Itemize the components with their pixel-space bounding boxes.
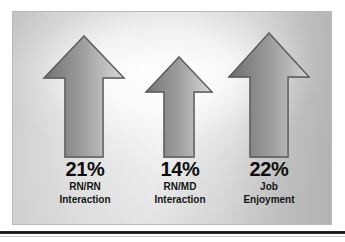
chart-panel: 21% RN/RN Interaction 14% RN/MD Interact…: [12, 11, 332, 225]
metric-column-job-enjoyment: 22% Job Enjoyment: [213, 158, 325, 206]
metric-label-job-enjoyment-line1: Job: [213, 180, 325, 193]
metric-label-job-enjoyment-line2: Enjoyment: [213, 193, 325, 206]
arrow-up-job-enjoyment: [227, 31, 311, 159]
bottom-divider-rule: [0, 231, 345, 234]
figure-canvas: 21% RN/RN Interaction 14% RN/MD Interact…: [0, 0, 345, 242]
metric-value-job-enjoyment: 22%: [213, 158, 325, 180]
bottom-divider-highlight: [0, 236, 345, 237]
arrow-up-rn-rn: [42, 34, 126, 159]
arrow-up-rn-md: [144, 55, 214, 159]
